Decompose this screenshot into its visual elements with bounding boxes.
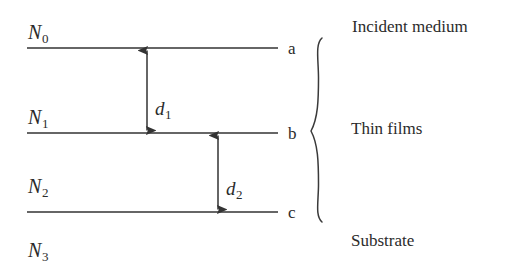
n3-symbol: N (28, 239, 42, 261)
refractive-index-n1: N1 (28, 107, 49, 130)
region-label-thin-films: Thin films (351, 120, 422, 137)
d1-symbol: d (155, 98, 165, 119)
n1-subscript: 1 (42, 116, 49, 131)
n1-symbol: N (28, 106, 42, 128)
d2-symbol: d (226, 178, 236, 199)
thickness-label-d1: d1 (155, 99, 172, 121)
n2-symbol: N (28, 175, 42, 197)
thin-film-stack-diagram: N0 N1 N2 N3 d1 d2 a b c Incident medium … (0, 0, 520, 277)
d2-subscript: 2 (236, 187, 243, 202)
refractive-index-n2: N2 (28, 176, 49, 199)
diagram-canvas (0, 0, 520, 277)
region-label-incident-medium: Incident medium (352, 18, 468, 35)
n2-subscript: 2 (42, 185, 49, 200)
n0-symbol: N (28, 21, 42, 43)
n0-subscript: 0 (42, 31, 49, 46)
n3-subscript: 3 (42, 249, 49, 264)
thickness-label-d2: d2 (226, 179, 243, 201)
interface-label-b: b (288, 125, 297, 142)
refractive-index-n0: N0 (28, 22, 49, 45)
interface-label-c: c (288, 204, 296, 221)
d1-subscript: 1 (165, 107, 172, 122)
region-label-substrate: Substrate (351, 232, 414, 249)
thin-films-brace (311, 38, 322, 222)
interface-label-a: a (288, 40, 296, 57)
thickness-arrows (147, 51, 218, 210)
refractive-index-n3: N3 (28, 240, 49, 263)
